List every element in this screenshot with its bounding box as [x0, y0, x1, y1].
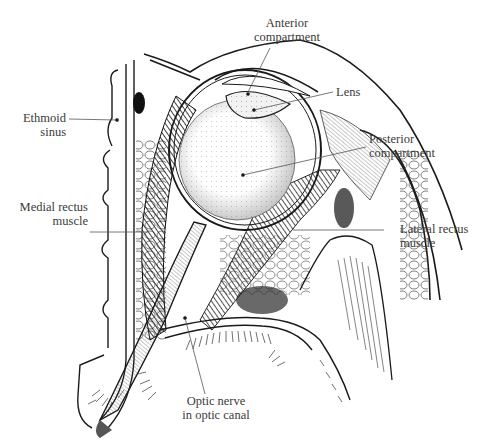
- label-optic-nerve-line1: Optic nerve: [152, 394, 280, 408]
- label-posterior-compartment: Posterior compartment: [369, 132, 435, 160]
- label-anterior-compartment: Anterior compartment: [254, 16, 320, 44]
- label-lens-line1: Lens: [336, 85, 360, 99]
- label-lens: Lens: [336, 85, 360, 99]
- label-medial-rectus-muscle-line1: Medial rectus: [10, 200, 88, 214]
- label-posterior-compartment-line1: Posterior: [369, 132, 435, 146]
- label-ethmoid-sinus-line1: Ethmoid: [10, 111, 66, 125]
- lateral-wall-striations: [338, 256, 384, 372]
- lateral-stipple-patch: [334, 188, 354, 228]
- label-lateral-rectus-muscle-line2: muscle: [400, 236, 468, 250]
- label-lateral-rectus-muscle-line1: Lateral rectus: [400, 222, 468, 236]
- label-optic-nerve-line2: in optic canal: [152, 408, 280, 422]
- label-ethmoid-sinus: Ethmoid sinus: [10, 111, 66, 139]
- label-optic-nerve: Optic nerve in optic canal: [152, 394, 280, 422]
- label-ethmoid-sinus-line2: sinus: [10, 125, 66, 139]
- label-medial-rectus-muscle: Medial rectus muscle: [10, 200, 88, 228]
- label-posterior-compartment-line2: compartment: [369, 146, 435, 160]
- label-medial-rectus-muscle-line2: muscle: [10, 214, 88, 228]
- inferior-stipple-patch: [236, 286, 288, 314]
- ethmoid-cell-dark: [133, 92, 145, 114]
- label-anterior-compartment-line1: Anterior: [254, 16, 320, 30]
- posterior-compartment-stipple: [179, 100, 295, 220]
- label-lateral-rectus-muscle: Lateral rectus muscle: [400, 222, 468, 250]
- label-anterior-compartment-line2: compartment: [254, 30, 320, 44]
